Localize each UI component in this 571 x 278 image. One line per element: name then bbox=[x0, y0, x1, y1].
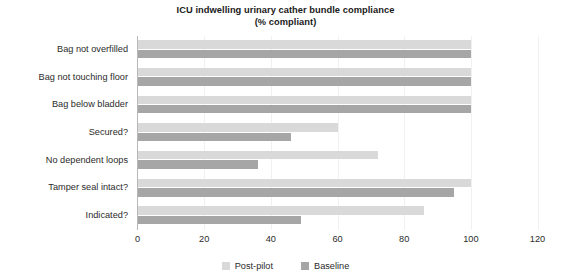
bar-group bbox=[138, 175, 538, 203]
y-axis-label: Bag not overfilled bbox=[57, 44, 128, 55]
y-axis-label: Bag below bladder bbox=[52, 99, 128, 110]
legend-label: Post-pilot bbox=[235, 261, 273, 272]
legend-item-post-pilot[interactable]: Post-pilot bbox=[222, 261, 273, 272]
bar-post-pilot bbox=[138, 68, 471, 76]
legend-item-baseline[interactable]: Baseline bbox=[301, 261, 349, 272]
bar-baseline bbox=[138, 105, 471, 113]
gridline bbox=[538, 36, 539, 230]
x-axis-tick: 40 bbox=[251, 234, 291, 245]
bar-group bbox=[138, 202, 538, 230]
legend-swatch-icon bbox=[301, 262, 309, 270]
bar-baseline bbox=[138, 50, 471, 58]
x-axis-tick: 120 bbox=[518, 234, 558, 245]
bar-chart: ICU indwelling urinary cather bundle com… bbox=[0, 0, 571, 278]
bar-group bbox=[138, 147, 538, 175]
bar-post-pilot bbox=[138, 123, 338, 131]
bar-baseline bbox=[138, 160, 258, 168]
x-axis-tick: 80 bbox=[384, 234, 424, 245]
bar-baseline bbox=[138, 188, 455, 196]
y-axis-label: Secured? bbox=[89, 127, 128, 138]
bar-group bbox=[138, 64, 538, 92]
chart-legend: Post-pilotBaseline bbox=[0, 258, 571, 274]
legend-label: Baseline bbox=[314, 261, 349, 272]
chart-title-main: ICU indwelling urinary cather bundle com… bbox=[177, 5, 395, 15]
bar-post-pilot bbox=[138, 151, 378, 159]
y-axis-label: Tamper seal intact? bbox=[48, 182, 128, 193]
bar-post-pilot bbox=[138, 96, 471, 104]
y-axis-label: Indicated? bbox=[86, 210, 128, 221]
y-axis-label: Bag not touching floor bbox=[39, 72, 128, 83]
x-axis-tick: 60 bbox=[318, 234, 358, 245]
y-axis-label: No dependent loops bbox=[46, 155, 128, 166]
chart-title: ICU indwelling urinary cather bundle com… bbox=[0, 5, 571, 28]
bar-post-pilot bbox=[138, 206, 425, 214]
x-axis-tick: 100 bbox=[451, 234, 491, 245]
y-axis-category-labels: Bag not overfilledBag not touching floor… bbox=[0, 36, 132, 230]
bar-group bbox=[138, 36, 538, 64]
bar-baseline bbox=[138, 216, 301, 224]
x-axis-tick: 20 bbox=[184, 234, 224, 245]
bar-baseline bbox=[138, 133, 291, 141]
chart-subtitle: (% compliant) bbox=[0, 17, 571, 29]
x-axis-tick: 0 bbox=[118, 234, 158, 245]
bar-post-pilot bbox=[138, 40, 471, 48]
legend-swatch-icon bbox=[222, 262, 230, 270]
plot-area bbox=[138, 36, 538, 230]
bar-baseline bbox=[138, 77, 471, 85]
bar-group bbox=[138, 119, 538, 147]
bar-post-pilot bbox=[138, 179, 471, 187]
bar-group bbox=[138, 91, 538, 119]
